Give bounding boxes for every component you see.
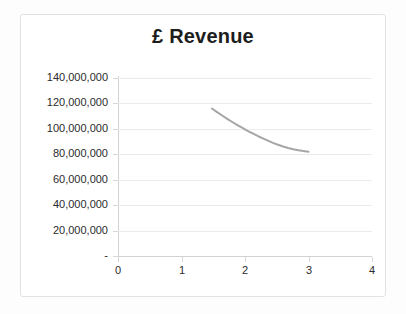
- x-tick-label: 1: [170, 264, 194, 276]
- plot-area: [118, 78, 372, 256]
- revenue-line-series: [118, 78, 372, 256]
- x-tick-label: 3: [297, 264, 321, 276]
- x-tick-label: 2: [233, 264, 257, 276]
- x-tick-label: 4: [360, 264, 384, 276]
- revenue-line-path: [212, 109, 309, 152]
- x-tick-mark: [182, 257, 183, 262]
- y-tick-label: 60,000,000: [22, 173, 108, 185]
- y-tick-label: 40,000,000: [22, 198, 108, 210]
- y-axis-tick-labels: -20,000,00040,000,00060,000,00080,000,00…: [22, 0, 108, 314]
- x-tick-label: 0: [106, 264, 130, 276]
- y-tick-label: 100,000,000: [22, 122, 108, 134]
- x-tick-mark: [118, 257, 119, 262]
- x-tick-mark: [245, 257, 246, 262]
- y-tick-label: 140,000,000: [22, 71, 108, 83]
- x-tick-mark: [309, 257, 310, 262]
- y-tick-label: 20,000,000: [22, 224, 108, 236]
- y-tick-label: 120,000,000: [22, 96, 108, 108]
- x-tick-mark: [372, 257, 373, 262]
- y-tick-label: -: [22, 249, 108, 261]
- y-tick-label: 80,000,000: [22, 147, 108, 159]
